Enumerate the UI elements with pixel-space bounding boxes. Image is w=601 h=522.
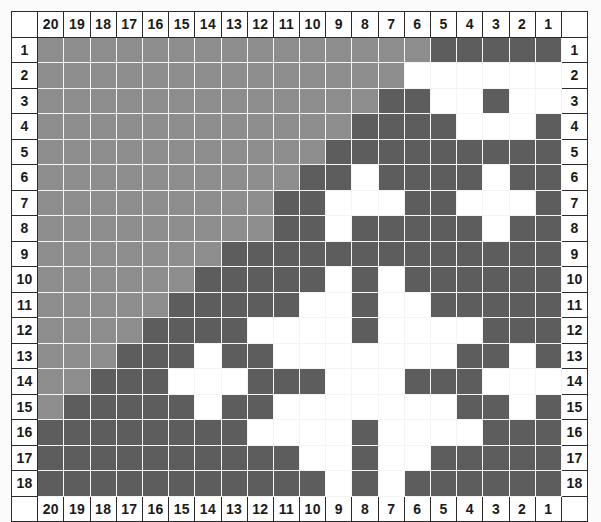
stitch-cell-r6-c8[interactable] (352, 165, 378, 191)
stitch-cell-r18-c18[interactable] (90, 471, 116, 497)
stitch-cell-r8-c15[interactable] (169, 216, 195, 242)
stitch-cell-r12-c11[interactable] (273, 318, 299, 344)
stitch-cell-r12-c7[interactable] (378, 318, 404, 344)
stitch-cell-r18-c5[interactable] (431, 471, 457, 497)
stitch-cell-r11-c17[interactable] (116, 292, 142, 318)
stitch-cell-r15-c19[interactable] (64, 394, 90, 420)
stitch-cell-r17-c2[interactable] (509, 445, 535, 471)
stitch-cell-r7-c13[interactable] (221, 190, 247, 216)
stitch-cell-r8-c10[interactable] (300, 216, 326, 242)
stitch-cell-r11-c1[interactable] (535, 292, 561, 318)
stitch-cell-r6-c3[interactable] (483, 165, 509, 191)
stitch-cell-r18-c15[interactable] (169, 471, 195, 497)
stitch-cell-r8-c9[interactable] (326, 216, 352, 242)
stitch-cell-r7-c10[interactable] (300, 190, 326, 216)
stitch-cell-r11-c18[interactable] (90, 292, 116, 318)
stitch-cell-r10-c15[interactable] (169, 267, 195, 293)
stitch-cell-r1-c4[interactable] (457, 37, 483, 63)
stitch-cell-r3-c17[interactable] (116, 88, 142, 114)
stitch-cell-r9-c14[interactable] (195, 241, 221, 267)
stitch-cell-r18-c20[interactable] (38, 471, 64, 497)
stitch-cell-r13-c20[interactable] (38, 343, 64, 369)
stitch-cell-r2-c17[interactable] (116, 63, 142, 89)
stitch-cell-r10-c20[interactable] (38, 267, 64, 293)
stitch-cell-r16-c2[interactable] (509, 420, 535, 446)
stitch-cell-r10-c1[interactable] (535, 267, 561, 293)
stitch-cell-r10-c19[interactable] (64, 267, 90, 293)
stitch-cell-r7-c11[interactable] (273, 190, 299, 216)
stitch-cell-r15-c12[interactable] (247, 394, 273, 420)
stitch-cell-r7-c18[interactable] (90, 190, 116, 216)
stitch-cell-r16-c20[interactable] (38, 420, 64, 446)
stitch-cell-r8-c19[interactable] (64, 216, 90, 242)
stitch-cell-r16-c9[interactable] (326, 420, 352, 446)
stitch-cell-r6-c12[interactable] (247, 165, 273, 191)
stitch-cell-r1-c13[interactable] (221, 37, 247, 63)
stitch-cell-r18-c1[interactable] (535, 471, 561, 497)
stitch-cell-r12-c17[interactable] (116, 318, 142, 344)
stitch-cell-r18-c10[interactable] (300, 471, 326, 497)
stitch-cell-r6-c13[interactable] (221, 165, 247, 191)
stitch-cell-r11-c16[interactable] (142, 292, 168, 318)
stitch-cell-r15-c17[interactable] (116, 394, 142, 420)
stitch-cell-r14-c2[interactable] (509, 369, 535, 395)
stitch-cell-r9-c1[interactable] (535, 241, 561, 267)
stitch-cell-r7-c2[interactable] (509, 190, 535, 216)
stitch-cell-r5-c4[interactable] (457, 139, 483, 165)
stitch-cell-r4-c20[interactable] (38, 114, 64, 140)
stitch-cell-r4-c17[interactable] (116, 114, 142, 140)
stitch-cell-r9-c9[interactable] (326, 241, 352, 267)
stitch-cell-r7-c5[interactable] (431, 190, 457, 216)
stitch-cell-r8-c1[interactable] (535, 216, 561, 242)
stitch-cell-r9-c18[interactable] (90, 241, 116, 267)
stitch-cell-r4-c1[interactable] (535, 114, 561, 140)
stitch-cell-r17-c8[interactable] (352, 445, 378, 471)
stitch-cell-r10-c2[interactable] (509, 267, 535, 293)
stitch-cell-r5-c18[interactable] (90, 139, 116, 165)
stitch-cell-r17-c16[interactable] (142, 445, 168, 471)
stitch-cell-r3-c8[interactable] (352, 88, 378, 114)
stitch-cell-r15-c9[interactable] (326, 394, 352, 420)
stitch-cell-r14-c13[interactable] (221, 369, 247, 395)
stitch-cell-r8-c18[interactable] (90, 216, 116, 242)
stitch-cell-r17-c13[interactable] (221, 445, 247, 471)
stitch-cell-r5-c17[interactable] (116, 139, 142, 165)
stitch-cell-r18-c8[interactable] (352, 471, 378, 497)
stitch-cell-r10-c12[interactable] (247, 267, 273, 293)
stitch-cell-r14-c3[interactable] (483, 369, 509, 395)
stitch-cell-r1-c10[interactable] (300, 37, 326, 63)
stitch-cell-r10-c13[interactable] (221, 267, 247, 293)
stitch-cell-r9-c10[interactable] (300, 241, 326, 267)
stitch-cell-r5-c5[interactable] (431, 139, 457, 165)
stitch-cell-r2-c16[interactable] (142, 63, 168, 89)
stitch-cell-r2-c19[interactable] (64, 63, 90, 89)
stitch-cell-r1-c9[interactable] (326, 37, 352, 63)
stitch-cell-r12-c10[interactable] (300, 318, 326, 344)
stitch-cell-r7-c17[interactable] (116, 190, 142, 216)
stitch-cell-r10-c6[interactable] (404, 267, 430, 293)
stitch-cell-r2-c7[interactable] (378, 63, 404, 89)
stitch-cell-r11-c15[interactable] (169, 292, 195, 318)
stitch-cell-r13-c11[interactable] (273, 343, 299, 369)
stitch-cell-r3-c18[interactable] (90, 88, 116, 114)
stitch-cell-r2-c11[interactable] (273, 63, 299, 89)
stitch-cell-r18-c19[interactable] (64, 471, 90, 497)
stitch-cell-r11-c9[interactable] (326, 292, 352, 318)
stitch-cell-r11-c2[interactable] (509, 292, 535, 318)
stitch-cell-r12-c19[interactable] (64, 318, 90, 344)
stitch-cell-r3-c2[interactable] (509, 88, 535, 114)
stitch-cell-r2-c4[interactable] (457, 63, 483, 89)
stitch-cell-r6-c10[interactable] (300, 165, 326, 191)
stitch-cell-r18-c4[interactable] (457, 471, 483, 497)
stitch-cell-r5-c8[interactable] (352, 139, 378, 165)
stitch-cell-r2-c9[interactable] (326, 63, 352, 89)
stitch-cell-r16-c7[interactable] (378, 420, 404, 446)
stitch-cell-r11-c8[interactable] (352, 292, 378, 318)
stitch-cell-r10-c18[interactable] (90, 267, 116, 293)
stitch-cell-r4-c7[interactable] (378, 114, 404, 140)
stitch-cell-r9-c19[interactable] (64, 241, 90, 267)
stitch-cell-r15-c7[interactable] (378, 394, 404, 420)
stitch-cell-r14-c20[interactable] (38, 369, 64, 395)
stitch-cell-r7-c14[interactable] (195, 190, 221, 216)
stitch-cell-r6-c14[interactable] (195, 165, 221, 191)
